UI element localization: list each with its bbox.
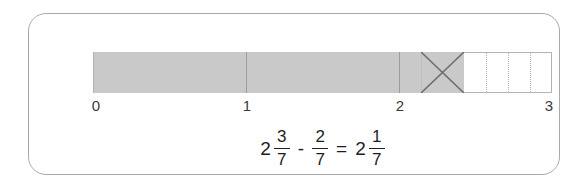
minuend-whole: 2 xyxy=(260,139,271,158)
seventh-divider-2 xyxy=(486,53,487,92)
unit-divider-at-2 xyxy=(399,52,400,93)
minuend-numerator: 3 xyxy=(274,126,289,148)
fraction-figure: 0 1 2 3 2 3 7 - 2 7 xyxy=(0,0,587,188)
minuend-denominator: 7 xyxy=(274,149,289,171)
subtrahend-fraction: 2 7 xyxy=(312,126,328,171)
tick-label-3: 3 xyxy=(545,96,553,116)
equation-minuend: 2 3 7 xyxy=(260,126,290,171)
bar-shaded-region xyxy=(94,52,464,93)
tick-label-2: 2 xyxy=(396,96,404,116)
x-cross-icon xyxy=(421,52,464,93)
seventh-divider-4 xyxy=(530,53,531,92)
equation: 2 3 7 - 2 7 = 2 1 xyxy=(29,126,587,171)
bar-model xyxy=(93,52,552,93)
result-whole: 2 xyxy=(355,139,366,158)
minuend-fraction: 3 7 xyxy=(274,126,290,171)
equals-sign: = xyxy=(332,139,351,158)
tick-label-0: 0 xyxy=(92,96,100,116)
minus-sign: - xyxy=(294,139,308,158)
result-numerator: 1 xyxy=(369,126,384,148)
unit-divider-at-1 xyxy=(246,52,247,93)
equation-subtrahend: 2 7 xyxy=(312,126,328,171)
subtrahend-denominator: 7 xyxy=(312,149,327,171)
axis-tick-labels: 0 1 2 3 xyxy=(93,96,552,118)
subtrahend-numerator: 2 xyxy=(312,126,327,148)
equation-result: 2 1 7 xyxy=(355,126,385,171)
result-denominator: 7 xyxy=(369,149,384,171)
result-fraction: 1 7 xyxy=(369,126,385,171)
tick-label-1: 1 xyxy=(243,96,251,116)
card-frame: 0 1 2 3 2 3 7 - 2 7 xyxy=(28,13,560,175)
seventh-divider-3 xyxy=(508,53,509,92)
